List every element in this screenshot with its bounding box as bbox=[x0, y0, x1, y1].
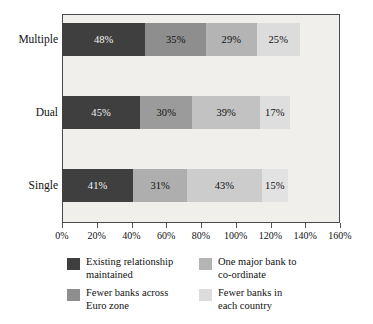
x-axis-tick bbox=[271, 223, 272, 228]
legend-swatch-icon bbox=[199, 258, 212, 270]
stacked-bar-chart: Multiple Dual Single 48%35%29%25% 45%30%… bbox=[0, 0, 373, 324]
x-axis-tick bbox=[166, 223, 167, 228]
x-axis-tick-label: 160% bbox=[328, 230, 351, 241]
y-axis-label-single: Single bbox=[0, 178, 58, 192]
bar-segment: 45% bbox=[62, 96, 140, 129]
category-label: Single bbox=[0, 178, 58, 192]
chart-legend: Existing relationship maintained One maj… bbox=[67, 256, 357, 318]
legend-item-label: Fewer banks in each country bbox=[218, 287, 282, 312]
bar-segment-value: 15% bbox=[265, 180, 285, 191]
x-axis-tick bbox=[340, 223, 341, 228]
x-axis-tick bbox=[236, 223, 237, 228]
x-axis-ticks bbox=[62, 223, 340, 229]
legend-item-existing-relationship: Existing relationship maintained bbox=[67, 256, 193, 287]
bar-segment-value: 30% bbox=[156, 107, 176, 118]
x-axis-tick-label: 20% bbox=[88, 230, 106, 241]
legend-swatch-icon bbox=[67, 289, 80, 301]
bar-segment: 35% bbox=[145, 23, 206, 56]
x-axis-tick-label: 80% bbox=[192, 230, 210, 241]
bar-segment-value: 17% bbox=[265, 107, 285, 118]
bar-segment-value: 31% bbox=[150, 180, 170, 191]
legend-item-fewer-banks-each-country: Fewer banks in each country bbox=[199, 287, 325, 318]
category-label: Multiple bbox=[0, 32, 58, 46]
legend-swatch-icon bbox=[67, 258, 80, 270]
bar-segment: 17% bbox=[260, 96, 290, 129]
bar-segment-value: 29% bbox=[222, 34, 242, 45]
legend-item-label: Fewer banks across Euro zone bbox=[86, 287, 168, 312]
bar-segment-value: 48% bbox=[94, 34, 114, 45]
x-axis-labels: 0%20%40%60%80%100%120%140%160% bbox=[0, 230, 373, 244]
x-axis-tick-label: 40% bbox=[122, 230, 140, 241]
legend-item-one-major-bank: One major bank to co-ordinate bbox=[199, 256, 325, 287]
bar-segment: 15% bbox=[262, 169, 288, 202]
y-axis-label-multiple: Multiple bbox=[0, 32, 58, 46]
bar-segment-value: 45% bbox=[91, 107, 111, 118]
bar-segment-value: 35% bbox=[166, 34, 186, 45]
x-axis-tick bbox=[62, 223, 63, 228]
x-axis-tick bbox=[305, 223, 306, 228]
x-axis-tick-label: 100% bbox=[224, 230, 247, 241]
bar-segment: 30% bbox=[140, 96, 192, 129]
bar-segment-value: 43% bbox=[215, 180, 235, 191]
x-axis-tick-label: 60% bbox=[157, 230, 175, 241]
bar-row: 41%31%43%15% bbox=[62, 169, 288, 202]
legend-swatch-icon bbox=[199, 289, 212, 301]
x-axis-tick-label: 0% bbox=[55, 230, 68, 241]
legend-item-label: One major bank to co-ordinate bbox=[218, 256, 296, 281]
x-axis-tick-label: 120% bbox=[259, 230, 282, 241]
bar-segment: 29% bbox=[206, 23, 256, 56]
x-axis-tick bbox=[132, 223, 133, 228]
bar-segment-value: 39% bbox=[216, 107, 236, 118]
bar-segment-value: 25% bbox=[269, 34, 289, 45]
bar-segment: 48% bbox=[62, 23, 145, 56]
x-axis-tick bbox=[201, 223, 202, 228]
y-axis-label-dual: Dual bbox=[0, 105, 58, 119]
legend-item-fewer-banks-euro-zone: Fewer banks across Euro zone bbox=[67, 287, 193, 318]
bar-row: 45%30%39%17% bbox=[62, 96, 290, 129]
category-label: Dual bbox=[0, 105, 58, 119]
x-axis-tick bbox=[97, 223, 98, 228]
legend-item-label: Existing relationship maintained bbox=[86, 256, 173, 281]
bar-segment: 31% bbox=[133, 169, 187, 202]
bar-segment: 43% bbox=[187, 169, 262, 202]
bar-segment: 39% bbox=[192, 96, 260, 129]
bar-row: 48%35%29%25% bbox=[62, 23, 300, 56]
x-axis-tick-label: 140% bbox=[294, 230, 317, 241]
bar-segment: 41% bbox=[62, 169, 133, 202]
bar-segment: 25% bbox=[257, 23, 300, 56]
bar-segment-value: 41% bbox=[88, 180, 108, 191]
